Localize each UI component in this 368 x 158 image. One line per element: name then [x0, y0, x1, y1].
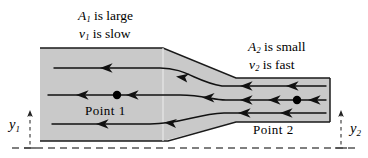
point-1-marker	[113, 91, 121, 99]
label-a2-is-small: A2 is small	[248, 40, 306, 56]
label-a1-is-large: A1 is large	[78, 9, 133, 25]
y2-subscript: 2	[356, 128, 361, 138]
label-y2-height: y2	[350, 121, 361, 138]
a1-description: is large	[91, 8, 134, 23]
a2-description: is small	[261, 39, 306, 54]
label-point-2: Point 2	[253, 123, 294, 136]
y1-subscript: 1	[15, 124, 20, 134]
label-point-1: Point 1	[85, 104, 126, 117]
fluid-flow-figure: A1 is large v1 is slow A2 is small v2 is…	[0, 0, 368, 158]
label-v1-is-slow: v1 is slow	[79, 27, 131, 43]
a1-variable: A	[78, 8, 86, 23]
v1-description: is slow	[89, 26, 130, 41]
point-2-marker	[293, 96, 301, 104]
a2-variable: A	[248, 39, 256, 54]
pipe-diagram-svg	[0, 0, 368, 158]
label-v2-is-fast: v2 is fast	[249, 58, 295, 74]
label-y1-height: y1	[9, 117, 20, 134]
v2-description: is fast	[259, 57, 294, 72]
